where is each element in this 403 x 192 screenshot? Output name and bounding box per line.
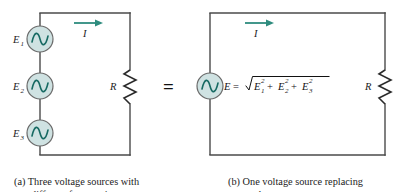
voltage-source-e1: E 1 (12, 26, 53, 52)
resistor-icon (124, 70, 136, 104)
source-subscript-e2: 2 (21, 87, 25, 95)
equation-term1-subscript: 1 (261, 87, 265, 95)
equation-term3-base: E (301, 81, 309, 92)
caption-panel-a: (a) Three voltage sources with different… (14, 162, 189, 192)
equation-term3-exponent: 2 (309, 77, 313, 85)
equation-plus-2: + (291, 81, 297, 92)
current-label-panel-b: I (253, 28, 258, 39)
equation-plus-1: + (267, 81, 273, 92)
equation-term2-base: E (277, 81, 285, 92)
resistor-label-panel-a: R (109, 81, 117, 92)
caption-panel-b-line2: three sources (228, 188, 403, 192)
source-label-e1: E (12, 34, 20, 45)
panel-a-circuit: E 1 E 2 E 3 R (12, 13, 136, 155)
panel-b-circuit: E = E 1 2 + E 2 2 + E 3 2 (197, 13, 391, 155)
resistor-label-panel-b: R (364, 81, 372, 92)
current-label-panel-a: I (82, 28, 87, 39)
current-arrow-panel-a: I (74, 20, 103, 40)
equation-operator: = (233, 81, 239, 92)
caption-panel-b-line1: (b) One voltage source replacing (228, 176, 363, 187)
equation-term1-exponent: 2 (261, 77, 265, 85)
source-subscript-e1: 1 (21, 40, 25, 48)
equation-term2-subscript: 2 (285, 87, 289, 95)
voltage-source-e2: E 2 (12, 73, 53, 99)
equation-term2-exponent: 2 (285, 77, 289, 85)
caption-panel-a-line1: (a) Three voltage sources with (14, 176, 139, 187)
equation-term3-subscript: 3 (308, 87, 313, 95)
source-equation: E = E 1 2 + E 2 2 + E 3 2 (223, 77, 329, 96)
equation-lhs: E (223, 81, 231, 92)
caption-panel-a-line2: different frequencies (14, 188, 189, 192)
source-label-e3: E (12, 128, 20, 139)
resistor-icon (379, 70, 391, 104)
equation-term1-base: E (253, 81, 261, 92)
source-subscript-e3: 3 (20, 134, 25, 142)
voltage-source-e3: E 3 (12, 120, 53, 146)
resistor-r-panel-b: R (364, 70, 391, 104)
arrow-head-icon (266, 20, 274, 27)
equals-sign: = (163, 76, 174, 97)
voltage-source-e (197, 73, 223, 99)
current-arrow-panel-b: I (245, 20, 274, 40)
arrow-head-icon (95, 20, 103, 27)
circuit-figure: E 1 E 2 E 3 R (0, 0, 403, 192)
source-label-e2: E (12, 81, 20, 92)
caption-panel-b: (b) One voltage source replacing three s… (228, 162, 403, 192)
resistor-r-panel-a: R (109, 70, 136, 104)
